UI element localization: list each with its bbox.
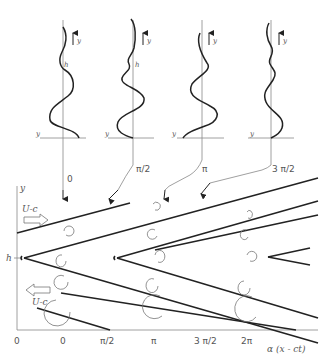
profile-curve [265, 23, 283, 138]
arrow-y-label: y [146, 37, 152, 45]
upper-flow-label: U-c [22, 204, 38, 214]
x-tick-label: π [151, 336, 157, 346]
line [21, 256, 22, 260]
profile-phase-0: y h y 0 [35, 20, 86, 199]
eddy-icon [247, 251, 257, 261]
line [61, 293, 296, 330]
down-arrow-icon [201, 183, 210, 194]
phase-label: π [202, 164, 208, 174]
profile-phase-3pi-2: y y 3 π/2 [201, 20, 295, 194]
eddy-icon [155, 250, 165, 262]
profile-curve [117, 19, 144, 138]
eddy-icon [238, 281, 250, 295]
lower-flow-label: U-c [32, 297, 48, 307]
line [268, 257, 310, 265]
profile-curve [183, 33, 217, 138]
x-tick-label: 0 [60, 336, 66, 346]
eddy-icon [235, 296, 256, 322]
h-tick-label: h [6, 253, 12, 263]
lower-flow-arrow: U-c [26, 284, 50, 307]
eddy-icon [247, 210, 252, 218]
down-arrow-icon [109, 190, 118, 199]
phase-label: π/2 [136, 164, 150, 174]
profile-phase-pi: y y π [164, 20, 224, 199]
x-tick-label: π/2 [100, 336, 114, 346]
x-tick-label: 0 [14, 336, 20, 346]
line [37, 308, 110, 330]
h-label: h [64, 61, 69, 69]
profile-phase-pi-2: y h y π/2 [104, 19, 154, 199]
eddy-icon [64, 226, 74, 236]
y-label: y [104, 130, 110, 138]
x-axis-label: α (x - ct) [267, 344, 306, 354]
critical-layer-lines [17, 178, 318, 343]
arrow-y-label: y [282, 37, 288, 45]
y-label: y [249, 130, 255, 138]
y-label: y [171, 130, 177, 138]
connector-line [118, 148, 133, 190]
connector-line [210, 150, 271, 183]
wave-profile-diagram: y h y 0 y h y π/2 y y π y y [0, 0, 328, 360]
right-arrow-icon [24, 214, 48, 226]
eddy-icon [146, 279, 158, 293]
eddy-icon [56, 255, 66, 267]
phase-plane-plot: y h [6, 178, 318, 354]
line [155, 215, 318, 250]
x-tick-label: 2π [241, 336, 253, 346]
eddy-icon [44, 300, 70, 326]
profile-curve [50, 27, 79, 138]
phase-label: 3 π/2 [272, 164, 295, 174]
line [117, 258, 318, 318]
eddy-icon [147, 229, 157, 239]
left-arrow-icon [26, 284, 50, 296]
arrow-y-label: y [76, 37, 82, 45]
eddy-icon [54, 275, 68, 289]
phase-label: 0 [67, 174, 73, 184]
down-arrow-icon [164, 190, 165, 199]
y-axis-label: y [19, 183, 26, 193]
arrow-y-label: y [212, 37, 218, 45]
x-tick-label: 3 π/2 [194, 336, 217, 346]
upper-flow-arrow: U-c [22, 204, 48, 226]
connector-line [165, 150, 202, 190]
h-label: h [135, 61, 140, 69]
line [268, 248, 310, 257]
y-label: y [35, 130, 41, 138]
eddy-icon [153, 202, 160, 210]
line [117, 201, 318, 258]
line [114, 256, 115, 260]
